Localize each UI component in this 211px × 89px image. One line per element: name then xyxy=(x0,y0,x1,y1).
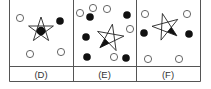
open-circle-icon xyxy=(89,4,96,11)
panel-contents xyxy=(16,4,192,62)
panel-d xyxy=(16,14,64,57)
label-f: (F) xyxy=(162,69,174,80)
filled-circle-icon xyxy=(122,54,130,62)
open-circle-icon xyxy=(76,9,83,16)
options-diagram: (D) (E) (F) xyxy=(0,0,211,89)
open-circle-icon xyxy=(57,48,64,55)
filled-circle-icon xyxy=(86,13,94,21)
label-d: (D) xyxy=(34,69,47,80)
filled-circle-icon xyxy=(83,53,91,61)
panel-e xyxy=(76,4,133,61)
open-circle-icon xyxy=(126,25,133,32)
label-e: (E) xyxy=(98,69,111,80)
open-circle-icon xyxy=(110,53,117,60)
star-icon xyxy=(152,14,178,41)
panel-labels: (D) (E) (F) xyxy=(34,69,174,80)
star-filled-arm-icon xyxy=(100,39,109,48)
figure-panels: (D) (E) (F) xyxy=(0,0,211,89)
filled-circle-icon xyxy=(82,33,90,41)
open-circle-icon xyxy=(175,55,182,62)
filled-circle-icon xyxy=(185,30,193,38)
open-circle-icon xyxy=(144,55,151,62)
filled-circle-icon xyxy=(123,11,131,19)
filled-circle-icon xyxy=(56,17,64,25)
open-circle-icon xyxy=(141,10,148,17)
open-circle-icon xyxy=(183,10,190,17)
open-circle-icon xyxy=(16,14,23,21)
star-center-dot-icon xyxy=(37,27,46,36)
open-circle-icon xyxy=(26,50,33,57)
open-circle-icon xyxy=(103,5,110,12)
filled-circle-icon xyxy=(140,29,148,37)
panel-f xyxy=(140,10,193,62)
